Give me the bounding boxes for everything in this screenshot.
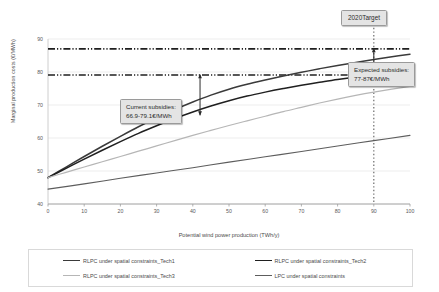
- x-tick-label-100: 100: [402, 208, 418, 214]
- legend-swatch-line-icon: [255, 275, 272, 276]
- annotation-expected-subsidies-line2: 77-87€/MWh: [354, 75, 409, 84]
- annotation-current-subsidies: Current subsidies: 66.9-79.1€/MWh: [120, 99, 182, 124]
- annotation-current-subsidies-line2: 66.9-79.1€/MWh: [126, 112, 176, 121]
- x-tick-label-40: 40: [185, 208, 201, 214]
- legend-item-label: RLPC under spatial constraints_Tech2: [275, 258, 367, 264]
- x-axis-title: Potential wind power production (TWh/y): [48, 232, 410, 238]
- annotation-expected-subsidies: Expected subsidies: 77-87€/MWh: [348, 62, 415, 87]
- legend-item-3[interactable]: RLPC under spatial constraints_Tech3: [29, 273, 221, 279]
- y-tick-label-40: 40: [25, 201, 43, 207]
- y-axis-title: Marginal production costs (€/MWh): [10, 6, 16, 156]
- x-tick-label-70: 70: [293, 208, 309, 214]
- legend-item-4[interactable]: LPC under spatial constraints: [221, 273, 413, 279]
- y-tick-label-50: 50: [25, 168, 43, 174]
- x-tick-label-60: 60: [257, 208, 273, 214]
- x-tick-label-50: 50: [221, 208, 237, 214]
- legend-item-1[interactable]: RLPC under spatial constraints_Tech1: [29, 258, 221, 264]
- legend-item-2[interactable]: RLPC under spatial constraints_Tech2: [221, 258, 413, 264]
- annotation-2020-target: 2020Target: [341, 10, 387, 26]
- legend-item-label: LPC under spatial constraints: [275, 273, 345, 279]
- x-tick-label-10: 10: [76, 208, 92, 214]
- legend-swatch-line-icon: [63, 275, 80, 276]
- x-tick-label-90: 90: [366, 208, 382, 214]
- x-tick-label-30: 30: [149, 208, 165, 214]
- y-tick-label-90: 90: [25, 36, 43, 42]
- legend-item-label: RLPC under spatial constraints_Tech3: [83, 273, 175, 279]
- x-tick-label-20: 20: [112, 208, 128, 214]
- legend-item-label: RLPC under spatial constraints_Tech1: [83, 258, 175, 264]
- chart-legend: RLPC under spatial constraints_Tech1RLPC…: [28, 249, 413, 287]
- y-tick-label-70: 70: [25, 102, 43, 108]
- figure: Marginal production costs (€/MWh) Potent…: [0, 0, 439, 292]
- legend-swatch-line-icon: [255, 260, 272, 261]
- legend-swatch-line-icon: [63, 260, 80, 261]
- x-tick-label-0: 0: [40, 208, 56, 214]
- chart-plot-area: Marginal production costs (€/MWh) Potent…: [0, 0, 439, 245]
- y-tick-label-60: 60: [25, 135, 43, 141]
- y-tick-label-80: 80: [25, 69, 43, 75]
- x-tick-label-80: 80: [330, 208, 346, 214]
- annotation-expected-subsidies-line1: Expected subsidies:: [354, 66, 409, 75]
- annotation-current-subsidies-line1: Current subsidies:: [126, 103, 176, 112]
